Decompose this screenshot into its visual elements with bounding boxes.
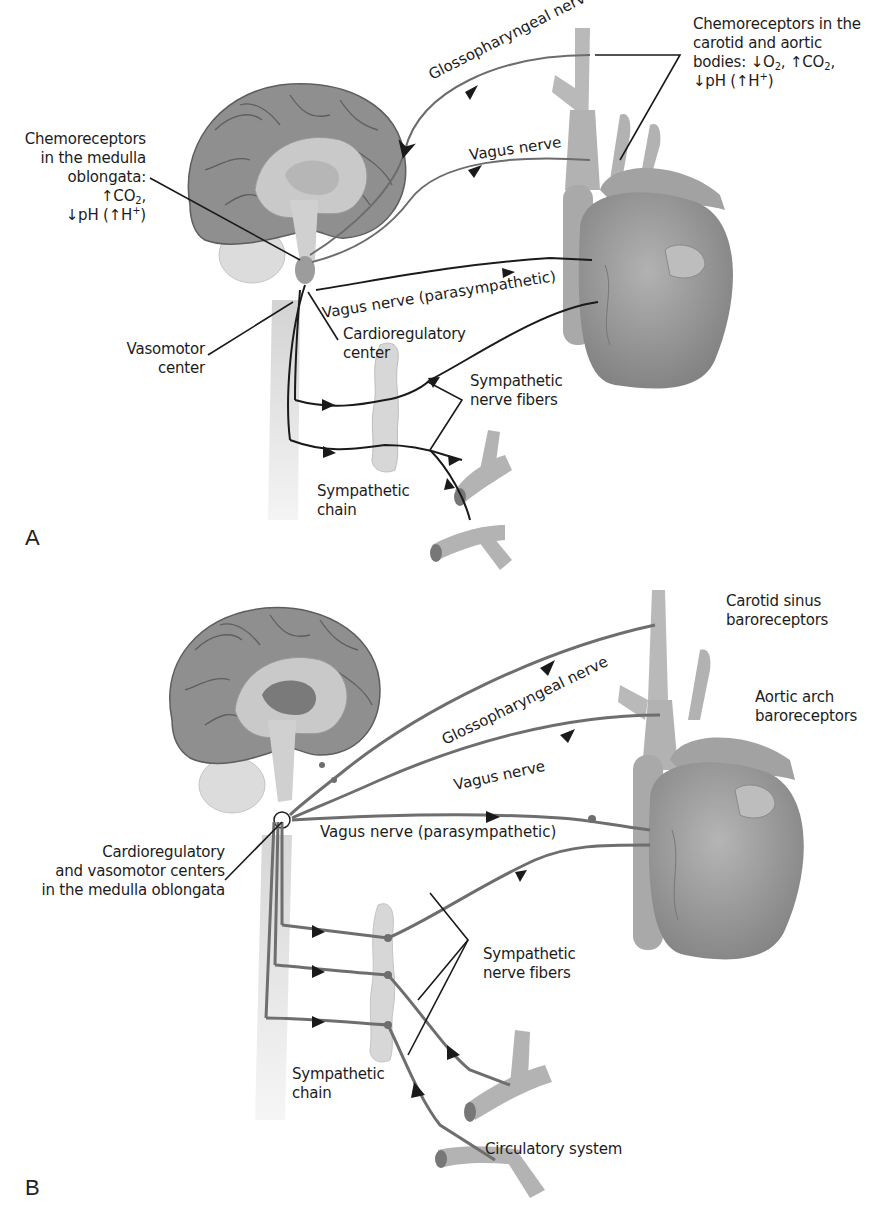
label-line: nerve fibers <box>483 964 575 983</box>
label-line: chain <box>292 1084 384 1103</box>
label-line: Carotid sinus <box>726 592 828 611</box>
heart-b <box>618 590 804 959</box>
label-line: baroreceptors <box>726 611 828 630</box>
label-line: Sympathetic <box>292 1065 384 1084</box>
synapse-knobs-b <box>319 762 596 1029</box>
circulatory-system-label: Circulatory system <box>485 1140 622 1159</box>
medulla-centers-label: Cardioregulatory and vasomotor centers i… <box>10 843 225 900</box>
brain-b <box>170 608 380 802</box>
label-line: Cardioregulatory <box>10 843 225 862</box>
sympathetic-chain-b <box>370 904 395 1062</box>
label-line: in the medulla oblongata <box>10 881 225 900</box>
carotid-sinus-baroreceptors-label: Carotid sinus baroreceptors <box>726 592 828 630</box>
aortic-arch-baroreceptors-label: Aortic arch baroreceptors <box>755 688 857 726</box>
label-line: baroreceptors <box>755 707 857 726</box>
label-line: Sympathetic <box>483 945 575 964</box>
panel-letter-b: B <box>25 1175 40 1201</box>
sympathetic-chain-label-b: Sympathetic chain <box>292 1065 384 1103</box>
sympathetic-fibers-label-b: Sympathetic nerve fibers <box>483 945 575 983</box>
label-line: and vasomotor centers <box>10 862 225 881</box>
label-line: Aortic arch <box>755 688 857 707</box>
vagus-label-b: Vagus nerve <box>452 757 547 794</box>
vagus-para-label-b: Vagus nerve (parasympathetic) <box>320 823 556 841</box>
spinal-cord-b <box>255 835 292 1120</box>
cerebellum-b <box>199 757 265 813</box>
